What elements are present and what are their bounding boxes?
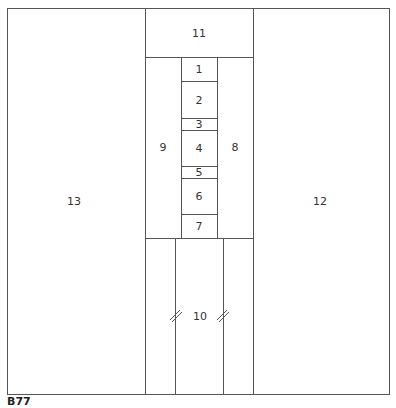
region-label-7: 7 xyxy=(196,220,203,233)
region-label-1: 1 xyxy=(196,63,203,76)
inner-stack-left-line xyxy=(181,57,182,238)
region-11-bottom-line xyxy=(145,57,254,58)
outer-border-left xyxy=(7,8,8,395)
region-label-12: 12 xyxy=(313,195,327,208)
region-label-6: 6 xyxy=(196,190,203,203)
region-label-11: 11 xyxy=(192,27,206,40)
region-label-10: 10 xyxy=(193,310,207,323)
figure-caption: B77 xyxy=(7,396,31,407)
divider-6-7 xyxy=(181,214,218,215)
region-label-13: 13 xyxy=(67,195,81,208)
region-label-9: 9 xyxy=(160,141,167,154)
divider-1-2 xyxy=(181,81,218,82)
center-column-right-line xyxy=(253,8,254,395)
inner-stack-right-line xyxy=(217,57,218,238)
break-mark-icon-right xyxy=(216,309,230,323)
center-column-left-line xyxy=(145,8,146,395)
region-label-3: 3 xyxy=(196,118,203,131)
outer-border-top xyxy=(7,8,390,9)
region-label-8: 8 xyxy=(232,141,239,154)
region-label-2: 2 xyxy=(196,94,203,107)
outer-border-right xyxy=(389,8,390,395)
region-label-5: 5 xyxy=(196,166,203,179)
break-mark-icon-left xyxy=(169,309,183,323)
outer-border-bottom xyxy=(7,394,390,395)
region-label-4: 4 xyxy=(196,142,203,155)
middle-block-bottom-line xyxy=(145,238,254,239)
